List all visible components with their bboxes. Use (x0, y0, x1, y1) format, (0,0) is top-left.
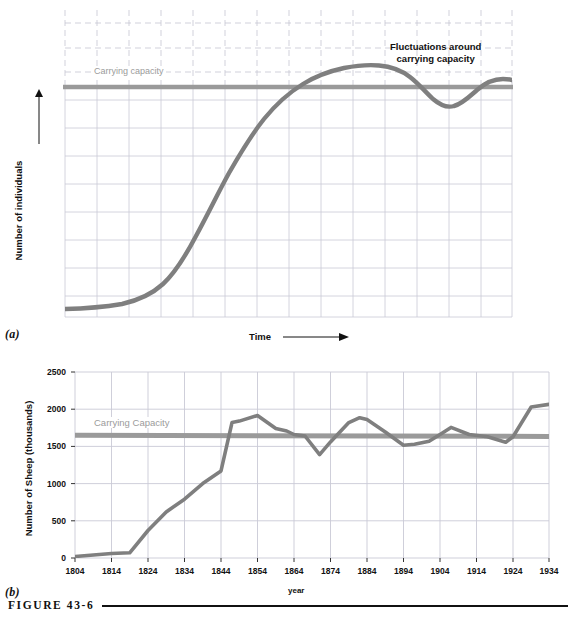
panel-b-xtick-1914: 1914 (458, 566, 496, 576)
panel-a-letter: (a) (5, 327, 20, 342)
panel-b-xtick-1824: 1824 (129, 566, 167, 576)
panel-a-carrying-capacity-label: Carrying capacity (92, 66, 166, 76)
figure-43-6: Carrying capacity Fluctuations around ca… (0, 0, 575, 618)
panel-b-xtick-1884: 1884 (348, 566, 386, 576)
panel-b-x-ticks (75, 558, 549, 562)
panel-b-carrying-capacity-line (75, 435, 549, 436)
panel-b-y-axis-label: Number of Sheep (thousands) (23, 379, 34, 559)
panel-b-xtick-1844: 1844 (202, 566, 240, 576)
panel-b-ytick-2000: 2000 (32, 404, 66, 414)
panel-b-xtick-1804: 1804 (56, 566, 94, 576)
panel-b-xtick-1854: 1854 (239, 566, 277, 576)
panel-b-letter: (b) (5, 585, 20, 600)
panel-b-gridlines-horizontal (75, 372, 549, 558)
panel-b-xtick-1894: 1894 (385, 566, 423, 576)
panel-b-xtick-1874: 1874 (312, 566, 350, 576)
panel-a-plot (0, 0, 575, 350)
panel-b-plot-background (75, 372, 549, 558)
panel-b-ytick-0: 0 (32, 553, 66, 563)
fluctuations-annotation-line2: carrying capacity (390, 53, 481, 65)
panel-a-fluctuations-annotation: Fluctuations around carrying capacity (390, 41, 481, 64)
panel-b-xtick-1814: 1814 (93, 566, 131, 576)
figure-caption: FIGURE 43-6 (8, 599, 568, 611)
panel-b-y-ticks (71, 372, 75, 558)
figure-caption-rule (102, 605, 568, 607)
panel-a-y-axis-label: Number of individuals (13, 146, 24, 276)
panel-b-ytick-2500: 2500 (32, 367, 66, 377)
panel-a-x-axis-arrow (281, 330, 353, 344)
panel-a-chart: Carrying capacity Fluctuations around ca… (0, 0, 575, 350)
panel-a-x-axis-label: Time (249, 331, 271, 342)
panel-b-x-axis-label: year (288, 586, 304, 595)
panel-b-gridlines-vertical (75, 372, 549, 558)
panel-b-ytick-1000: 1000 (32, 479, 66, 489)
panel-b-xtick-1864: 1864 (275, 566, 313, 576)
panel-b-ytick-1500: 1500 (32, 441, 66, 451)
figure-caption-label: FIGURE 43-6 (8, 599, 94, 611)
panel-b-xtick-1924: 1924 (494, 566, 532, 576)
panel-a-y-axis-arrow (32, 86, 46, 146)
panel-b-xtick-1904: 1904 (421, 566, 459, 576)
panel-b-xtick-1934: 1934 (530, 566, 568, 576)
panel-b-ytick-500: 500 (32, 516, 66, 526)
fluctuations-annotation-line1: Fluctuations around (390, 41, 481, 53)
panel-b-xtick-1834: 1834 (166, 566, 204, 576)
panel-b-carrying-capacity-label: Carrying Capacity (92, 417, 172, 428)
